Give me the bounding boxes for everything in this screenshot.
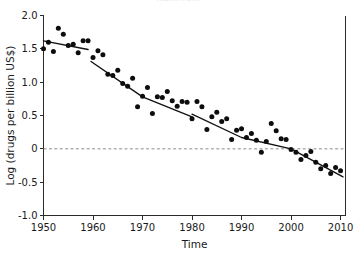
data-point	[338, 168, 343, 173]
y-tick-label--0.5: -0.5	[18, 177, 38, 188]
scatter-plot-canvas: -1.0-0.500.51.01.52.0 195019601970198019…	[0, 0, 356, 256]
data-point	[51, 49, 56, 54]
data-point	[81, 38, 86, 43]
data-point	[175, 104, 180, 109]
x-tick-label-2010: 2010	[328, 222, 353, 233]
data-point	[293, 150, 298, 155]
data-point	[323, 163, 328, 168]
data-point	[239, 126, 244, 131]
x-tick-label-1960: 1960	[80, 222, 105, 233]
x-tick-label-1950: 1950	[31, 222, 56, 233]
data-point	[318, 166, 323, 171]
data-point	[115, 68, 120, 73]
data-point	[91, 55, 96, 60]
data-point	[328, 171, 333, 176]
data-point	[180, 99, 185, 104]
data-point	[41, 46, 46, 51]
data-point	[209, 114, 214, 119]
data-point	[199, 104, 204, 109]
data-point	[125, 84, 130, 89]
data-point	[46, 40, 51, 45]
data-point	[165, 89, 170, 94]
cut-off-chart-title: Overall trend	[0, 0, 356, 1]
data-point	[259, 150, 264, 155]
data-point	[86, 38, 91, 43]
data-point	[135, 104, 140, 109]
data-point	[95, 48, 100, 53]
data-point	[274, 128, 279, 133]
data-point	[71, 42, 76, 47]
data-point	[76, 50, 81, 55]
data-point	[130, 76, 135, 81]
data-point	[313, 160, 318, 165]
data-point	[150, 111, 155, 116]
chart-figure: Overall trend -1.0-0.500.51.01.52.0 1950…	[0, 0, 356, 256]
data-point	[244, 135, 249, 140]
data-point	[303, 153, 308, 158]
x-tick-label-2000: 2000	[278, 222, 303, 233]
data-point	[110, 73, 115, 78]
data-point	[120, 81, 125, 86]
data-point	[145, 85, 150, 90]
y-tick-label-0.5: 0.5	[22, 110, 38, 121]
y-tick-label-1.5: 1.5	[22, 43, 38, 54]
x-tick-label-1970: 1970	[130, 222, 155, 233]
data-point	[194, 99, 199, 104]
data-point	[289, 147, 294, 152]
y-tick-label-0: 0	[31, 143, 37, 154]
y-tick-label--1.0: -1.0	[18, 210, 38, 221]
x-axis-title: Time	[181, 238, 208, 250]
data-point	[249, 131, 254, 136]
data-point	[214, 110, 219, 115]
data-point	[224, 116, 229, 121]
x-axis-ticks	[44, 216, 341, 220]
x-tick-label-1980: 1980	[179, 222, 204, 233]
y-tick-label-2.0: 2.0	[22, 10, 38, 21]
data-point	[190, 116, 195, 121]
data-point	[56, 26, 61, 31]
data-point	[234, 128, 239, 133]
data-point	[333, 165, 338, 170]
data-points-group	[41, 26, 343, 176]
y-tick-label-1.0: 1.0	[22, 77, 38, 88]
data-point	[140, 94, 145, 99]
data-point	[100, 52, 105, 57]
y-axis-tick-labels: -1.0-0.500.51.01.52.0	[18, 10, 38, 221]
data-point	[160, 95, 165, 100]
data-point	[105, 72, 110, 77]
data-point	[284, 137, 289, 142]
trend-lines-group	[44, 41, 344, 177]
data-point	[308, 149, 313, 154]
data-point	[61, 32, 66, 37]
data-point	[66, 43, 71, 48]
y-axis-ticks	[40, 16, 44, 216]
data-point	[254, 138, 259, 143]
data-point	[279, 136, 284, 141]
y-axis-title: Log (drugs per billion US$)	[4, 46, 16, 186]
data-point	[185, 100, 190, 105]
data-point	[264, 139, 269, 144]
x-tick-label-1990: 1990	[229, 222, 254, 233]
data-point	[155, 94, 160, 99]
data-point	[170, 98, 175, 103]
data-point	[298, 157, 303, 162]
data-point	[269, 121, 274, 126]
data-point	[219, 119, 224, 124]
x-axis-tick-labels: 1950196019701980199020002010	[31, 222, 354, 233]
data-point	[229, 137, 234, 142]
data-point	[204, 127, 209, 132]
